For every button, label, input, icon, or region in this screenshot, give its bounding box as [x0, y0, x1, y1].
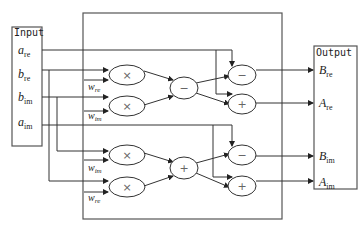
subtract-node-im: −	[228, 145, 256, 165]
butterfly-diagram: Input are bre bim aim Output Bre Are Bim…	[0, 0, 361, 227]
weight-label-2: wim	[88, 110, 102, 123]
input-a-im: aim	[18, 115, 33, 131]
input-title: Input	[14, 27, 44, 38]
add-node-im: +	[228, 176, 256, 196]
subtract-node-middle: −	[170, 77, 198, 99]
output-a-re: Are	[318, 96, 333, 112]
weight-label-1: wre	[88, 81, 100, 94]
svg-text:×: ×	[122, 69, 131, 82]
add-node-middle: +	[170, 157, 198, 179]
svg-text:×: ×	[122, 149, 131, 162]
svg-text:+: +	[237, 180, 246, 193]
output-block: Output Bre Are Bim Aim	[314, 46, 357, 191]
weight-label-4: wre	[88, 192, 100, 205]
input-block: Input are bre bim aim	[12, 27, 44, 146]
add-node-re: +	[228, 94, 256, 114]
svg-text:−: −	[179, 82, 188, 95]
input-b-re: bre	[18, 67, 31, 83]
svg-text:×: ×	[122, 181, 131, 194]
multiplier-node-1: ×	[109, 65, 145, 85]
svg-text:×: ×	[122, 100, 131, 113]
output-a-im: Aim	[318, 175, 336, 191]
multiplier-node-3: ×	[109, 145, 145, 165]
svg-text:−: −	[237, 69, 246, 82]
output-b-im: Bim	[319, 149, 336, 165]
input-b-im: bim	[18, 90, 33, 106]
output-title: Output	[316, 47, 352, 58]
output-b-re: Bre	[319, 63, 333, 79]
subtract-node-re: −	[228, 65, 256, 85]
svg-text:+: +	[179, 162, 188, 175]
weight-label-3: wim	[88, 162, 102, 175]
input-a-re: are	[18, 43, 31, 59]
svg-text:−: −	[237, 149, 246, 162]
multiplier-node-4: ×	[109, 177, 145, 197]
svg-text:+: +	[237, 98, 246, 111]
multiplier-node-2: ×	[109, 96, 145, 116]
